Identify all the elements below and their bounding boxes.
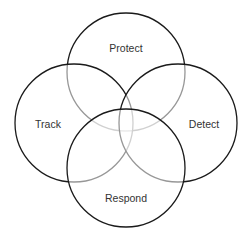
circle-respond [67, 109, 185, 227]
label-respond: Respond [105, 192, 147, 204]
label-protect: Protect [109, 42, 142, 54]
label-track: Track [35, 118, 61, 130]
label-detect: Detect [189, 118, 219, 130]
